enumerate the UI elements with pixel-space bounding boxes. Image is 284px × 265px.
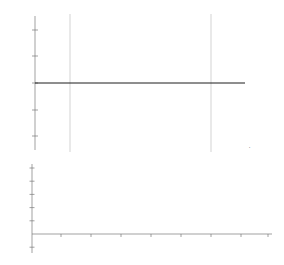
- bottom-plot-svg: [0, 158, 284, 265]
- top-plot-svg: .: [0, 0, 284, 160]
- bottom-spectrum-plot: [0, 158, 284, 265]
- spectrum-x-axis: [32, 234, 272, 237]
- top-signal-plot: .: [0, 0, 284, 160]
- corner-mark: .: [249, 143, 251, 149]
- figure-container: .: [0, 0, 284, 265]
- spectrum-y-axis: [30, 164, 35, 253]
